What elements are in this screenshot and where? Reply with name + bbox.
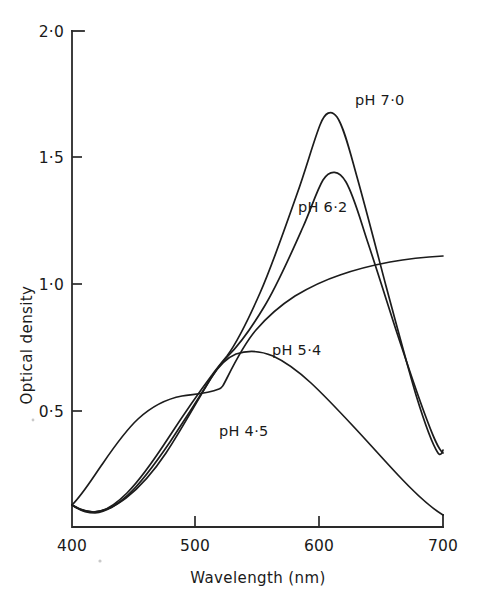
x-tick-label-400: 400 bbox=[57, 537, 87, 555]
curve-annotation-ph-6-2: pH 6·2 bbox=[298, 199, 348, 215]
y-tick-label-1-0: 1·0 bbox=[39, 276, 64, 294]
curves-group bbox=[72, 113, 443, 515]
x-axis-title: Wavelength (nm) bbox=[190, 569, 326, 587]
curve-annotation-ph-5-4: pH 5·4 bbox=[272, 342, 322, 358]
x-tick-label-700: 700 bbox=[428, 537, 458, 555]
curve-annotation-ph-4-5: pH 4·5 bbox=[219, 423, 269, 439]
y-tick-label-2-0: 2·0 bbox=[39, 23, 64, 41]
y-axis-ticks bbox=[72, 157, 82, 411]
scan-speck bbox=[32, 419, 35, 422]
x-tick-label-600: 600 bbox=[304, 537, 334, 555]
figure-container: 2·0 1·5 1·0 0·5 400 500 600 700 Waveleng… bbox=[0, 0, 477, 599]
optical-density-chart: 2·0 1·5 1·0 0·5 400 500 600 700 Waveleng… bbox=[0, 0, 477, 599]
y-axis-title: Optical density bbox=[18, 286, 36, 405]
x-tick-label-500: 500 bbox=[180, 537, 210, 555]
x-axis-ticks bbox=[195, 516, 319, 527]
y-tick-label-1-5: 1·5 bbox=[39, 149, 64, 167]
curve-ph-6-2 bbox=[72, 172, 443, 513]
curve-ph-7-0 bbox=[72, 113, 443, 512]
y-tick-label-0-5: 0·5 bbox=[39, 403, 64, 421]
curve-annotation-ph-7-0: pH 7·0 bbox=[355, 92, 405, 108]
scan-speck bbox=[98, 559, 101, 562]
